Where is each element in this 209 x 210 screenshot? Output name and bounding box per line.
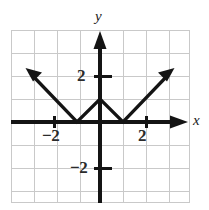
graph-figure: y x 2 −2 −2 2 (0, 0, 209, 210)
x-axis-label: x (193, 113, 200, 128)
y-axis-label: y (95, 9, 102, 24)
x-tick-label-negative-2: −2 (42, 127, 59, 144)
y-tick-label-positive-2: 2 (77, 67, 85, 84)
x-tick-label-positive-2: 2 (138, 127, 146, 144)
coordinate-plane-svg (0, 0, 209, 210)
y-tick-label-negative-2: −2 (70, 159, 87, 176)
